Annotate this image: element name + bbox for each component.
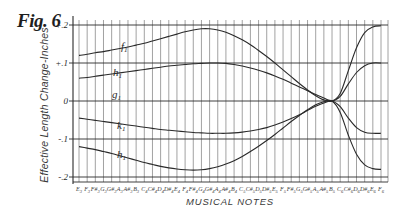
- x-tick-label: A4: [214, 186, 222, 194]
- y-tick-label: -.1: [58, 134, 68, 144]
- y-tick-label: +.1: [55, 58, 68, 68]
- curve-h: [79, 63, 381, 101]
- x-tick-label: F#4: [188, 186, 199, 194]
- x-tick-label: D#6: [359, 186, 370, 194]
- x-tick-label: A#4: [220, 186, 231, 194]
- line-chart: +.2+.10-.1-.2 E3F3F#3G3G#3A3A#3B3C4C#4D4…: [0, 0, 393, 213]
- x-tick-label: F5: [279, 186, 287, 194]
- x-tick-label: A#5: [318, 186, 329, 194]
- x-tick-label: F3: [83, 186, 91, 194]
- x-tick-label: G#5: [303, 186, 313, 194]
- y-axis-ticks: +.2+.10-.1-.2: [55, 20, 68, 182]
- x-tick-label: F4: [181, 186, 189, 194]
- y-tick-label: -.2: [58, 172, 68, 182]
- y-tick-label: +.2: [55, 20, 68, 30]
- x-axis-ticks: E3F3F#3G3G#3A3A#3B3C4C#4D4D#4E4F4F#4G4G#…: [75, 186, 385, 194]
- curve-label-f: f1: [121, 40, 128, 54]
- x-tick-label: E6: [369, 186, 377, 194]
- curve-label-k: k1: [117, 119, 125, 133]
- x-tick-label: B5: [329, 186, 336, 194]
- x-tick-label: E5: [271, 186, 279, 194]
- x-tick-label: F#5: [286, 186, 297, 194]
- x-tick-label: F#3: [90, 186, 101, 194]
- x-tick-label: B3: [133, 186, 140, 194]
- x-tick-label: A#3: [123, 186, 134, 194]
- curve-label-h: h1: [113, 66, 122, 80]
- x-tick-label: E3: [75, 186, 83, 194]
- x-tick-label: G#4: [205, 186, 215, 194]
- x-tick-label: G#3: [107, 186, 117, 194]
- curve-label-h: h1: [117, 148, 126, 162]
- x-tick-label: A5: [312, 186, 320, 194]
- x-tick-label: B4: [231, 186, 238, 194]
- x-tick-label: E4: [173, 186, 181, 194]
- x-tick-label: D#5: [261, 186, 272, 194]
- x-tick-label: F6: [377, 186, 385, 194]
- x-tick-label: A3: [116, 186, 124, 194]
- x-tick-label: D#4: [163, 186, 174, 194]
- y-tick-label: 0: [64, 96, 69, 106]
